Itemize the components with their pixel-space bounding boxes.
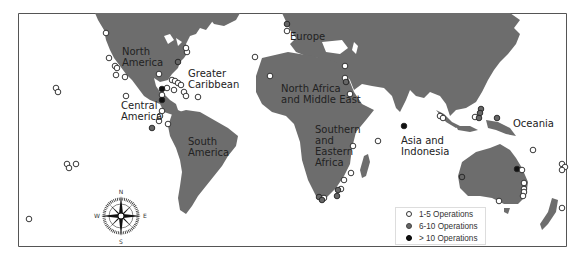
legend-label: > 10 Operations	[419, 234, 478, 243]
legend-item-mid: 6-10 Operations	[396, 221, 485, 232]
region-label-line: America	[122, 57, 163, 68]
operation-point	[55, 89, 61, 95]
legend-label: 6-10 Operations	[419, 222, 478, 231]
region-label-asia-indonesia: Asia andIndonesia	[401, 135, 449, 157]
operation-point	[334, 193, 340, 199]
operation-point	[459, 174, 465, 180]
region-label-line: America	[188, 147, 229, 158]
operation-point	[476, 115, 482, 121]
legend-label: 1-5 Operations	[419, 210, 473, 219]
region-label-line: and Middle East	[281, 94, 361, 105]
operation-point	[496, 198, 502, 204]
region-label-line: Asia and	[401, 135, 449, 146]
region-label-line: Oceania	[513, 118, 554, 129]
operation-point	[401, 123, 407, 129]
operation-point	[342, 63, 348, 69]
operation-point	[267, 73, 273, 79]
operation-point	[521, 180, 527, 186]
operation-point	[159, 86, 165, 92]
operation-point	[106, 55, 112, 61]
region-label-line: Eastern	[315, 146, 361, 157]
operation-point	[494, 115, 500, 121]
operation-point	[165, 121, 171, 127]
region-label-line: Africa	[315, 157, 361, 168]
operation-point	[252, 54, 258, 60]
region-label-line: South	[188, 136, 229, 147]
operation-point	[114, 65, 120, 71]
operation-point	[26, 216, 32, 222]
region-label-europe: Europe	[290, 31, 325, 42]
operation-point	[335, 187, 341, 193]
operation-point	[375, 138, 381, 144]
region-label-north-america: NorthAmerica	[122, 46, 163, 68]
region-label-line: North Africa	[281, 83, 361, 94]
legend-large-dot-icon	[406, 235, 412, 241]
region-label-southern-eastern-africa: SouthernandEasternAfrica	[315, 124, 361, 168]
legend-item-large: > 10 Operations	[396, 233, 485, 244]
operation-point	[103, 30, 109, 36]
operation-point	[440, 115, 446, 121]
operation-point	[348, 170, 354, 176]
region-label-line: Europe	[290, 31, 325, 42]
region-label-line: and	[315, 135, 361, 146]
operation-point	[149, 125, 155, 131]
region-label-line: Caribbean	[188, 79, 239, 90]
operation-point	[520, 193, 526, 199]
legend-small-dot-icon	[406, 211, 412, 217]
operation-point	[66, 165, 72, 171]
region-label-line: Central	[121, 100, 162, 111]
legend-mid-dot-icon	[406, 223, 412, 229]
region-label-line: America	[121, 111, 162, 122]
operation-point	[122, 74, 128, 80]
operation-point	[183, 93, 189, 99]
operation-point	[171, 87, 177, 93]
region-label-oceania: Oceania	[513, 118, 554, 129]
region-label-central-america: CentralAmerica	[121, 100, 162, 122]
operation-point	[519, 167, 525, 173]
operation-point	[123, 93, 129, 99]
compass-n: N	[119, 188, 124, 195]
operation-point	[195, 94, 201, 100]
operation-point	[284, 28, 290, 34]
operation-point	[530, 147, 536, 153]
region-label-line: Greater	[188, 68, 239, 79]
operation-point	[559, 205, 565, 211]
region-label-north-africa-middle-east: North Africaand Middle East	[281, 83, 361, 105]
operation-point	[113, 72, 119, 78]
operation-point	[178, 82, 184, 88]
legend: 1-5 Operations 6-10 Operations > 10 Oper…	[395, 207, 486, 245]
operation-point	[183, 45, 189, 51]
operation-point	[156, 71, 162, 77]
operation-point	[559, 167, 565, 173]
region-label-line: Southern	[315, 124, 361, 135]
operation-point	[284, 21, 290, 27]
legend-item-small: 1-5 Operations	[396, 209, 485, 220]
compass-w: W	[94, 212, 100, 219]
operation-point	[73, 161, 79, 167]
region-label-greater-caribbean: GreaterCaribbean	[188, 68, 239, 90]
region-label-line: Indonesia	[401, 146, 449, 157]
operation-point	[341, 177, 347, 183]
compass-e: E	[143, 212, 147, 219]
region-label-line: North	[122, 46, 163, 57]
region-label-south-america: SouthAmerica	[188, 136, 229, 158]
compass-s: S	[119, 238, 123, 245]
operation-point	[319, 197, 325, 203]
operation-point	[175, 59, 181, 65]
